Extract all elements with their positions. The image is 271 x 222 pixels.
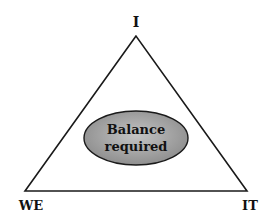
balance-ellipse (84, 111, 188, 165)
vertex-label-it: IT (242, 198, 258, 213)
center-label-line2: required (105, 139, 168, 154)
center-label-line1: Balance (107, 122, 165, 137)
vertex-label-we: WE (18, 198, 44, 213)
vertex-label-i: I (133, 14, 140, 30)
triangle-diagram: I WE IT Balance required (0, 0, 271, 222)
